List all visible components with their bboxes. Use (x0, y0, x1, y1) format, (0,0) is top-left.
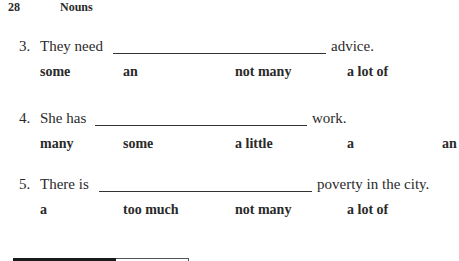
question-text-before: She has (40, 110, 86, 127)
question-text-after: work. (312, 110, 347, 127)
option[interactable]: not many (235, 64, 291, 80)
option[interactable]: a little (235, 136, 273, 152)
question-text-after: advice. (331, 38, 374, 55)
option[interactable]: a (40, 202, 47, 218)
section-title: Nouns (60, 0, 93, 15)
question-number: 3. (19, 38, 30, 55)
option[interactable]: an (442, 136, 457, 152)
question-text-before: They need (40, 38, 103, 55)
option[interactable]: too much (123, 202, 179, 218)
option[interactable]: not many (235, 202, 291, 218)
answer-blank[interactable] (99, 190, 312, 192)
option[interactable]: some (40, 64, 70, 80)
score-bar-empty (116, 258, 188, 259)
answer-blank[interactable] (95, 124, 307, 126)
option[interactable]: a (347, 136, 354, 152)
page-number: 28 (8, 0, 20, 15)
option[interactable]: some (123, 136, 153, 152)
option[interactable]: a lot of (347, 202, 388, 218)
question-text-before: There is (40, 176, 89, 193)
option[interactable]: an (123, 64, 138, 80)
answer-blank[interactable] (113, 52, 326, 54)
question-number: 4. (19, 110, 30, 127)
option[interactable]: many (40, 136, 73, 152)
question-number: 5. (19, 176, 30, 193)
question-text-after: poverty in the city. (317, 176, 429, 193)
option[interactable]: a lot of (347, 64, 388, 80)
